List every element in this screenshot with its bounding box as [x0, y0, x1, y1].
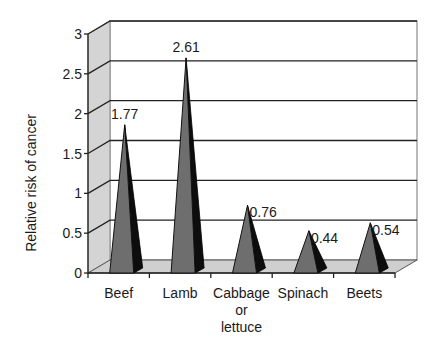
data-label: 2.61	[172, 39, 199, 55]
y-tick-label: 3	[74, 26, 82, 42]
pyramid-chart: 00.511.522.53 BeefLambCabbageorlettuceSp…	[0, 0, 434, 343]
x-tick-label-line: Cabbage	[213, 285, 270, 301]
x-tick-label-line: lettuce	[221, 319, 262, 335]
y-tick-label: 2	[74, 106, 82, 122]
x-tick-label-line: or	[235, 302, 248, 318]
data-label: 0.76	[250, 204, 277, 220]
x-tick-label: Beets	[346, 285, 382, 301]
y-tick-label: 2.5	[63, 66, 83, 82]
y-tick-label: 0	[74, 265, 82, 281]
x-tick-label-line: Beets	[346, 285, 382, 301]
data-label: 0.44	[311, 230, 338, 246]
x-tick-label-line: Lamb	[163, 285, 198, 301]
x-tick-label-line: Spinach	[278, 285, 329, 301]
x-tick-label: Cabbageorlettuce	[213, 285, 270, 335]
y-axis-title: Relative risk of cancer	[23, 114, 39, 252]
x-axis: BeefLambCabbageorlettuceSpinachBeets	[88, 273, 395, 335]
y-tick-label: 0.5	[63, 225, 83, 241]
data-label: 0.54	[372, 222, 399, 238]
x-tick-label: Beef	[104, 285, 133, 301]
data-label: 1.77	[111, 106, 138, 122]
x-tick-label-line: Beef	[104, 285, 133, 301]
x-tick-label: Spinach	[278, 285, 329, 301]
y-tick-label: 1.5	[63, 146, 83, 162]
x-tick-label: Lamb	[163, 285, 198, 301]
y-axis: 00.511.522.53	[63, 26, 88, 281]
y-tick-label: 1	[74, 185, 82, 201]
